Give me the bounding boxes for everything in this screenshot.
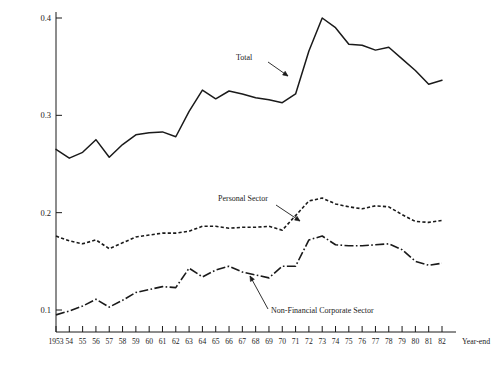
x-axis-tick-label: 78: [385, 337, 393, 346]
x-axis-tick-label: 70: [278, 337, 286, 346]
x-axis-tick-label: 54: [66, 337, 74, 346]
x-axis-tick-label: 71: [292, 337, 300, 346]
x-axis-tick-label: 68: [252, 337, 260, 346]
y-axis: 0.10.20.30.4: [40, 12, 62, 332]
series-line-non-financial-corporate-sector: [56, 236, 442, 315]
x-axis-tick-label: 55: [79, 337, 87, 346]
annotation-label: Personal Sector: [218, 194, 268, 203]
chart-container: 0.10.20.30.4 195354555657585960616263646…: [0, 0, 494, 371]
x-axis-tick-label: 1953: [48, 337, 63, 346]
annotation-arrowhead: [250, 276, 254, 281]
x-axis-tick-label: 75: [345, 337, 353, 346]
x-axis-tick-label: 73: [318, 337, 326, 346]
x-axis-tick-label: 76: [358, 337, 366, 346]
x-axis-tick-label: 57: [105, 337, 113, 346]
x-axis-tick-label: 59: [132, 337, 140, 346]
series-line-total: [56, 18, 442, 158]
x-axis-tick-label: 69: [265, 337, 273, 346]
annotation-leader: [250, 276, 268, 309]
x-axis-tick-label: 58: [119, 337, 127, 346]
x-axis-tick-label: 81: [425, 337, 433, 346]
x-axis-tick-label: 74: [332, 337, 340, 346]
x-axis-tick-label: 67: [239, 337, 247, 346]
x-axis-tick-label: 82: [438, 337, 446, 346]
x-axis-tick-label: 56: [92, 337, 100, 346]
x-axis-tick-label: 62: [172, 337, 180, 346]
x-axis-tick-label: 80: [412, 337, 420, 346]
x-axis-tick-label: 66: [225, 337, 233, 346]
x-axis-tick-label: 65: [212, 337, 220, 346]
x-axis-tick-label: 61: [159, 337, 167, 346]
x-axis-tick-label: 60: [145, 337, 153, 346]
y-axis-tick-label: 0.3: [40, 110, 51, 120]
x-axis-caption: Year-end: [462, 337, 490, 346]
series-layer: [56, 18, 442, 315]
x-axis-tick-label: 63: [185, 337, 193, 346]
y-axis-tick-label: 0.1: [40, 305, 51, 315]
annotation-arrowhead: [295, 216, 300, 221]
x-axis-tick-label: 77: [372, 337, 380, 346]
y-axis-tick-label: 0.4: [40, 13, 51, 23]
annotation-label: Non-Financial Corporate Sector: [271, 306, 374, 315]
annotation-arrowhead: [283, 71, 288, 76]
line-chart: 0.10.20.30.4 195354555657585960616263646…: [0, 0, 494, 371]
x-axis-tick-label: 64: [199, 337, 207, 346]
y-axis-tick-label: 0.2: [40, 208, 51, 218]
x-axis-tick-label: 79: [398, 337, 406, 346]
series-line-personal-sector: [56, 198, 442, 249]
annotation-label: Total: [236, 53, 253, 62]
x-axis: 1953545556575859606162636465666768697071…: [48, 326, 490, 346]
x-axis-tick-label: 72: [305, 337, 313, 346]
